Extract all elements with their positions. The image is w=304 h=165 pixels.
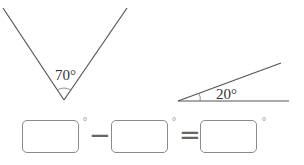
v-angle-arc	[57, 88, 71, 90]
equals-sign: =	[179, 122, 201, 148]
v-right-ray	[64, 8, 127, 100]
degree-symbol-1: °	[83, 117, 87, 127]
v-left-ray	[3, 8, 64, 100]
small-angle-arc	[199, 94, 200, 101]
answer-box-3[interactable]	[200, 120, 257, 153]
degree-symbol-3: °	[262, 117, 266, 127]
answer-box-1[interactable]	[22, 120, 79, 153]
answer-box-2[interactable]	[111, 120, 168, 153]
minus-sign: −	[89, 122, 111, 148]
v-angle-label: 70°	[55, 68, 76, 83]
small-angle-label: 20°	[216, 87, 237, 102]
degree-symbol-2: °	[172, 117, 176, 127]
